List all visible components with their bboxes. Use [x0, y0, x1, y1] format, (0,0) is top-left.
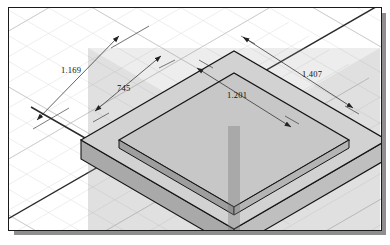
- isometric-drawing-canvas[interactable]: [9, 8, 381, 230]
- cad-viewport[interactable]: 1.169 745 1.201 1.407: [8, 7, 382, 231]
- projection-shadow-column: [228, 126, 240, 230]
- dimension-label-745[interactable]: 745: [117, 84, 130, 93]
- dimension-label-1201[interactable]: 1.201: [227, 91, 247, 100]
- dimension-label-1169[interactable]: 1.169: [61, 66, 81, 75]
- cad-screenshot: 1.169 745 1.201 1.407: [0, 0, 390, 245]
- dimension-label-1407[interactable]: 1.407: [302, 70, 322, 79]
